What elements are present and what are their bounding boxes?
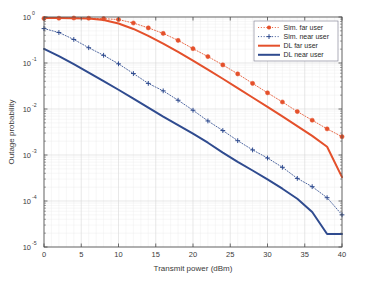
x-tick-label: 0 [42,250,46,259]
marker-circle [280,100,284,104]
y-tick-label: 10 [23,243,31,252]
x-tick-label: 30 [263,250,271,259]
marker-circle [146,26,150,30]
legend-label-0: Sim. far user [284,24,324,31]
figure-container: 051015202530354010010-110-210-310-410-5T… [0,0,369,290]
y-tick-exponent: -5 [32,240,37,246]
y-tick-label: 10 [23,59,31,68]
legend-marker-circle [267,25,271,29]
marker-circle [161,31,165,35]
x-tick-label: 40 [338,250,346,259]
y-tick-label: 10 [23,151,31,160]
x-tick-label: 20 [189,250,197,259]
y-tick-label: 10 [23,105,31,114]
y-tick-exponent: -1 [32,56,37,62]
legend-label-2: DL far user [284,42,319,49]
legend-label-1: Sim. near user [284,33,330,40]
legend-label-3: DL near user [284,51,325,58]
legend: Sim. far userSim. near userDL far userDL… [254,21,338,61]
marker-circle [295,109,299,113]
marker-circle [236,72,240,76]
y-tick-label: 10 [23,197,31,206]
y-tick-exponent: -2 [32,102,37,108]
marker-circle [191,47,195,51]
x-tick-label: 15 [152,250,160,259]
marker-circle [176,38,180,42]
marker-circle [265,91,269,95]
y-tick-exponent: -3 [32,148,37,154]
marker-circle [325,127,329,131]
x-tick-label: 35 [301,250,309,259]
marker-circle [221,63,225,67]
y-tick-exponent: -4 [32,194,37,200]
y-tick-label: 10 [23,13,31,22]
marker-circle [251,81,255,85]
x-axis-label: Transmit power (dBm) [154,264,233,273]
y-tick-exponent: 0 [32,10,35,16]
x-tick-label: 25 [226,250,234,259]
marker-circle [206,54,210,58]
marker-circle [310,118,314,122]
x-tick-label: 5 [79,250,83,259]
marker-circle [131,21,135,25]
outage-probability-chart: 051015202530354010010-110-210-310-410-5T… [0,0,369,290]
y-axis-label: Outage probability [7,100,16,165]
x-tick-label: 10 [114,250,122,259]
